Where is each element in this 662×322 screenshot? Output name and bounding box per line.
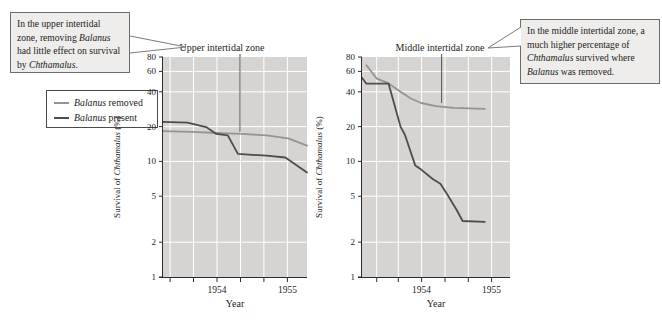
y-axis-label: Survival of Chthamalus (%) xyxy=(314,116,324,218)
chart-upper-intertidal: 806040201052119541955YearSurvival of Cht… xyxy=(105,32,340,322)
figure-canvas: In the upper intertidal zone, removing B… xyxy=(0,0,662,322)
y-tick-label: 2 xyxy=(351,237,356,247)
zone-label: Upper intertidal zone xyxy=(180,42,266,53)
x-tick-label: 1955 xyxy=(278,285,297,295)
y-tick-label: 80 xyxy=(147,52,157,62)
x-axis-label: Year xyxy=(226,298,245,309)
x-axis-label: Year xyxy=(427,298,446,309)
y-tick-label: 40 xyxy=(346,87,356,97)
zone-label: Middle intertidal zone xyxy=(396,42,485,53)
chart-middle-intertidal: 806040201052119541955YearSurvival of Cht… xyxy=(310,32,520,322)
y-tick-label: 10 xyxy=(147,156,157,166)
x-tick-label: 1955 xyxy=(482,285,501,295)
y-axis-label: Survival of Chthamalus (%) xyxy=(112,116,122,218)
plot-area xyxy=(163,57,307,277)
x-tick-label: 1954 xyxy=(412,285,431,295)
y-tick-label: 10 xyxy=(346,156,356,166)
y-tick-label: 40 xyxy=(147,87,157,97)
y-tick-label: 20 xyxy=(147,122,157,132)
y-tick-label: 60 xyxy=(147,66,157,76)
legend-swatch-present-line-icon xyxy=(54,117,69,119)
y-tick-label: 80 xyxy=(346,52,356,62)
y-tick-label: 20 xyxy=(346,122,356,132)
plot-area xyxy=(362,57,510,277)
y-tick-label: 1 xyxy=(152,272,157,282)
y-tick-label: 1 xyxy=(351,272,356,282)
y-tick-label: 2 xyxy=(152,237,157,247)
callout-middle-zone: In the middle intertidal zone, a much hi… xyxy=(520,19,660,84)
y-tick-label: 5 xyxy=(152,191,157,201)
y-tick-label: 5 xyxy=(351,191,356,201)
x-tick-label: 1954 xyxy=(208,285,227,295)
y-tick-label: 60 xyxy=(346,66,356,76)
legend-swatch-removed-line-icon xyxy=(54,102,69,104)
callout-middle-zone-text: In the middle intertidal zone, a much hi… xyxy=(527,25,645,77)
